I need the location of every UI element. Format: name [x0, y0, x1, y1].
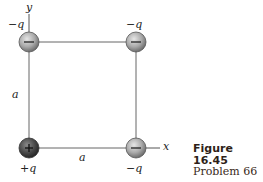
y-axis-label: y [26, 2, 32, 13]
charge-bottom-right [126, 138, 146, 158]
side-length-label-left: a [12, 89, 19, 100]
charge-label-top-right: −q [126, 19, 142, 30]
figure-number: Figure 16.45 [193, 143, 263, 166]
charge-label-bottom-left: +q [20, 163, 36, 174]
side-length-label-bottom: a [79, 152, 86, 163]
charge-bottom-left [19, 138, 39, 158]
x-axis-label: x [163, 141, 169, 152]
charge-label-top-left: −q [8, 19, 24, 30]
problem-reference: Problem 66 [193, 166, 263, 178]
charge-label-bottom-right: −q [126, 163, 142, 174]
charge-top-right [126, 32, 146, 52]
charge-top-left [19, 32, 39, 52]
figure-caption: Figure 16.45 Problem 66 [193, 143, 263, 178]
figure-diagram: y x a a −q −q +q −q Figure 16.45 Problem… [0, 0, 263, 182]
